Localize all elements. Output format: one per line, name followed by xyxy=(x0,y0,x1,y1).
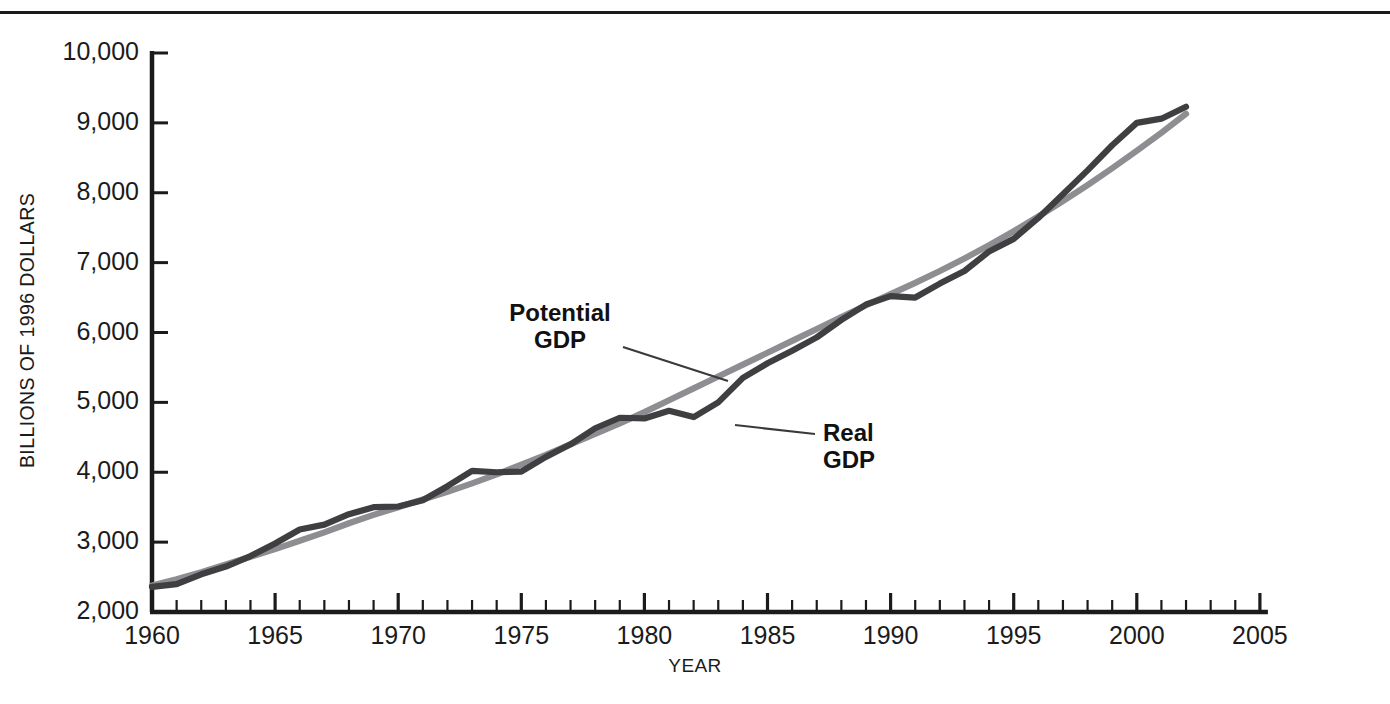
figure-canvas: BILLIONS OF 1996 DOLLARS 10,0009,0008,00… xyxy=(0,0,1390,704)
x-axis-title: YEAR xyxy=(0,655,1390,677)
y-axis-ticks xyxy=(152,53,168,542)
x-axis-minor-ticks xyxy=(152,593,1260,612)
annotation-real-gdp: Real GDP xyxy=(823,419,933,473)
data-series-lines xyxy=(152,107,1186,587)
series-line-potential-gdp xyxy=(152,114,1186,586)
series-line-real-gdp xyxy=(152,107,1186,587)
leader-line-potential xyxy=(623,347,728,381)
annotation-potential-gdp: Potential GDP xyxy=(500,299,620,353)
leader-line-real xyxy=(735,425,815,434)
plot-area xyxy=(0,0,1390,704)
annotation-leader-lines xyxy=(623,347,815,434)
chart-svg xyxy=(0,0,1390,704)
